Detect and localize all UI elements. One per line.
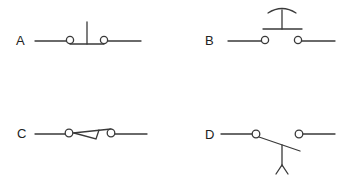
switch-c-left-terminal bbox=[65, 129, 73, 137]
switch-b-right-terminal bbox=[294, 36, 301, 43]
switch-d-left-terminal bbox=[252, 130, 260, 138]
switch-a-left-terminal bbox=[66, 36, 73, 43]
switch-d-right-terminal bbox=[295, 130, 303, 138]
switch-a: A bbox=[16, 22, 141, 48]
switch-a-label: A bbox=[16, 33, 25, 48]
switch-a-right-terminal bbox=[100, 36, 107, 43]
switch-b-label: B bbox=[205, 33, 214, 48]
switch-c: C bbox=[17, 126, 147, 141]
switch-symbols-diagram: A B C D bbox=[0, 0, 356, 187]
switch-c-blade bbox=[73, 129, 111, 133]
switch-d-blade bbox=[259, 137, 300, 151]
switch-b-left-terminal bbox=[261, 36, 268, 43]
switch-c-label: C bbox=[17, 126, 26, 141]
switch-d-label: D bbox=[205, 127, 214, 142]
switch-d: D bbox=[205, 127, 335, 174]
switch-b: B bbox=[205, 9, 335, 49]
switch-c-right-terminal bbox=[107, 129, 115, 137]
